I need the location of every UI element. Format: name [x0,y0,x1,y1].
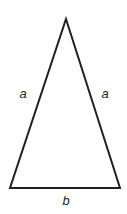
label-side-a-right: a [98,87,112,100]
triangle-shape [0,0,127,214]
label-side-a-left: a [16,87,30,100]
label-side-b-base: b [59,194,73,207]
triangle-diagram: a a b [0,0,127,214]
isosceles-triangle-outline [10,19,120,188]
